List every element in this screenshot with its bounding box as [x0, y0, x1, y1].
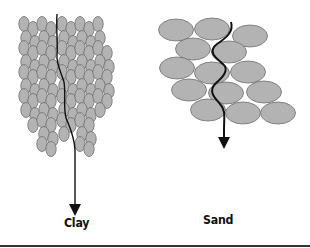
sand-arrowhead-icon — [218, 137, 230, 149]
diagram-canvas — [0, 0, 310, 248]
sand-label: Sand — [203, 212, 233, 227]
sand-particles — [159, 18, 296, 124]
clay-particles — [19, 17, 114, 157]
bottom-rule — [0, 245, 310, 247]
soil-drainage-diagram: Clay Sand — [0, 0, 310, 248]
clay-label: Clay — [64, 215, 89, 230]
